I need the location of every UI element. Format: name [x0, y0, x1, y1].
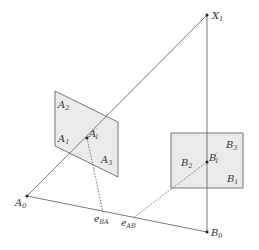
epipolar-diagram: X1 A0 B0 A′1 B′1 A2 A1 A3 B3 B2 B1 eBA e…: [0, 0, 259, 250]
label-e-ab: eAB: [121, 218, 136, 230]
label-e-ba: eBA: [94, 214, 109, 226]
point-a0: [26, 195, 29, 198]
baseline: [27, 196, 207, 232]
label-a1-prime: A′1: [88, 127, 99, 141]
label-x1: X1: [211, 10, 223, 23]
point-x1: [206, 14, 209, 17]
label-a0: A0: [14, 197, 26, 210]
point-b0: [206, 231, 209, 234]
label-b1-prime: B′1: [208, 151, 219, 165]
label-b0: B0: [210, 227, 223, 240]
